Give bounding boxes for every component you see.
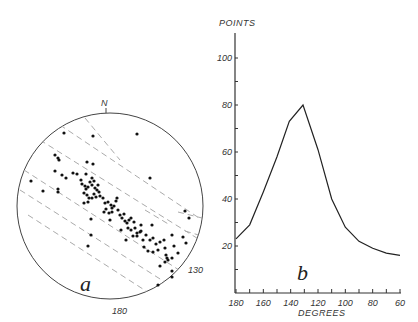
pole-dot bbox=[139, 229, 142, 232]
pole-dot bbox=[104, 207, 107, 210]
pole-dot bbox=[41, 189, 44, 192]
pole-dot bbox=[165, 256, 168, 259]
pole-dot bbox=[116, 208, 119, 211]
pole-dot bbox=[133, 226, 136, 229]
pole-dot bbox=[150, 223, 153, 226]
pole-dot bbox=[183, 209, 186, 212]
pole-dot bbox=[187, 216, 190, 219]
pole-dot bbox=[154, 242, 157, 245]
pole-dot bbox=[151, 236, 154, 239]
pole-dot bbox=[170, 269, 173, 272]
pole-dot bbox=[84, 172, 87, 175]
pole-dot bbox=[29, 179, 32, 182]
pole-dot bbox=[92, 192, 95, 195]
pole-dot bbox=[148, 238, 151, 241]
pole-dot bbox=[122, 212, 125, 215]
pole-dot bbox=[141, 238, 144, 241]
pole-dot bbox=[86, 244, 89, 247]
pole-dot bbox=[135, 234, 138, 237]
pole-dot bbox=[164, 253, 167, 256]
pole-dot bbox=[125, 221, 128, 224]
pole-dot bbox=[56, 190, 59, 193]
pole-dot bbox=[124, 238, 127, 241]
pole-dot bbox=[170, 275, 173, 278]
pole-dot bbox=[60, 173, 63, 176]
pole-dot bbox=[131, 234, 134, 237]
stereonet-panel-a: N a 130 180 bbox=[17, 98, 203, 316]
pole-dot bbox=[92, 179, 95, 182]
pole-dot bbox=[181, 235, 184, 238]
pole-dot bbox=[158, 240, 161, 243]
pole-dot bbox=[129, 216, 132, 219]
x-tick-label: 60 bbox=[395, 298, 405, 308]
pole-dot bbox=[53, 153, 56, 156]
x-axis-ticks: 1801601401201008060 bbox=[228, 289, 405, 308]
pole-dot bbox=[144, 233, 147, 236]
pole-dot bbox=[91, 134, 94, 137]
pole-dot bbox=[53, 169, 56, 172]
pole-dot bbox=[101, 196, 104, 199]
pole-dot bbox=[86, 185, 89, 188]
y-tick-label: 20 bbox=[221, 241, 232, 251]
x-tick-label: 80 bbox=[368, 298, 378, 308]
pole-dot bbox=[110, 210, 113, 213]
pole-dot bbox=[90, 176, 93, 179]
x-tick-label: 160 bbox=[256, 298, 271, 308]
pole-dot bbox=[162, 238, 165, 241]
pole-dot bbox=[83, 184, 86, 187]
y-axis-title: POINTS bbox=[219, 18, 256, 28]
pole-dot bbox=[115, 196, 118, 199]
y-tick-label: 40 bbox=[222, 194, 232, 204]
pole-dot bbox=[80, 182, 83, 185]
panel-label-a: a bbox=[80, 271, 91, 296]
x-tick-label: 100 bbox=[338, 298, 353, 308]
pole-dot bbox=[64, 176, 67, 179]
figure: N a 130 180 POINTS 20406080100 180160140… bbox=[0, 0, 418, 322]
dashed-contour-line bbox=[145, 210, 170, 225]
pole-dot bbox=[89, 233, 92, 236]
pole-dot bbox=[88, 180, 91, 183]
pole-dot bbox=[96, 183, 99, 186]
line-chart-panel-b: POINTS 20406080100 1801601401201008060 D… bbox=[217, 18, 405, 318]
pole-dot bbox=[135, 231, 138, 234]
dashed-contour-line bbox=[40, 140, 200, 240]
pole-dot bbox=[120, 216, 123, 219]
pole-dot bbox=[107, 211, 110, 214]
label-180: 180 bbox=[112, 306, 127, 316]
dashed-contour-line bbox=[60, 125, 202, 220]
pole-dot bbox=[132, 220, 135, 223]
pole-dot bbox=[163, 260, 166, 263]
pole-dot bbox=[142, 245, 145, 248]
pole-dot bbox=[112, 204, 115, 207]
pole-dot bbox=[89, 217, 92, 220]
pole-dot bbox=[109, 203, 112, 206]
pole-dot bbox=[156, 248, 159, 251]
pole-dot bbox=[158, 264, 161, 267]
pole-dot bbox=[129, 228, 132, 231]
north-label: N bbox=[101, 98, 108, 108]
pole-dot bbox=[94, 195, 97, 198]
pole-dot bbox=[126, 226, 129, 229]
pole-dot bbox=[56, 187, 59, 190]
pole-dot bbox=[82, 191, 85, 194]
pole-dot bbox=[91, 162, 94, 165]
pole-dot bbox=[106, 200, 109, 203]
pole-dot bbox=[85, 193, 88, 196]
pole-points bbox=[29, 131, 190, 286]
label-130: 130 bbox=[188, 265, 203, 275]
x-tick-label: 120 bbox=[310, 298, 325, 308]
pole-dot bbox=[146, 249, 149, 252]
dashed-contour-line bbox=[24, 170, 196, 281]
pole-dot bbox=[86, 200, 89, 203]
pole-dot bbox=[98, 194, 101, 197]
pole-dot bbox=[163, 246, 166, 249]
pole-dot bbox=[82, 201, 85, 204]
pole-dot bbox=[119, 228, 122, 231]
y-tick-label: 60 bbox=[222, 147, 232, 157]
x-tick-label: 140 bbox=[283, 298, 298, 308]
pole-dot bbox=[87, 196, 90, 199]
pole-dot bbox=[148, 176, 151, 179]
x-tick-label: 180 bbox=[228, 298, 243, 308]
y-tick-label: 100 bbox=[217, 53, 232, 63]
pole-dot bbox=[71, 171, 74, 174]
